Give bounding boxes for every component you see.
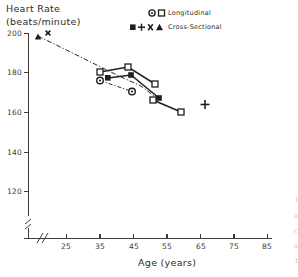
- marker-triangle-filled: [35, 34, 41, 40]
- y-axis-ticks: [24, 34, 29, 239]
- marker-square-filled: [105, 75, 111, 81]
- legend-marker-square-open: [159, 10, 165, 16]
- marker-square-filled: [128, 72, 134, 78]
- plot-canvas: [0, 0, 298, 277]
- marker-square-open: [178, 109, 184, 115]
- marker-square-open: [152, 81, 158, 87]
- marker-x-mark: [46, 31, 51, 36]
- marker-square-open: [97, 69, 103, 75]
- series-line-cross-sectional-trend: [38, 36, 158, 99]
- y-axis-break-mark: [25, 219, 31, 229]
- x-axis-ticks: [67, 234, 268, 239]
- marker-square-filled: [156, 95, 162, 101]
- series-line-longitudinal-lower: [153, 100, 181, 112]
- legend-marker-square-filled: [130, 24, 136, 30]
- legend-marker-triangle-filled: [156, 24, 163, 30]
- legend-marker-circle-open: [149, 10, 155, 16]
- series-line-longitudinal-circles: [100, 81, 132, 92]
- marker-square-open: [150, 97, 156, 103]
- marker-circle-open: [129, 88, 136, 95]
- figure-chart-heart-rate-vs-age: Heart Rate (beats/minute) Age (years) 20…: [0, 0, 298, 277]
- legend-marker-x-mark: [148, 24, 153, 30]
- legend-marker-plus: [138, 24, 145, 31]
- marker-circle-open: [97, 77, 104, 84]
- marker-plus: [201, 100, 210, 109]
- marker-square-open: [125, 64, 131, 70]
